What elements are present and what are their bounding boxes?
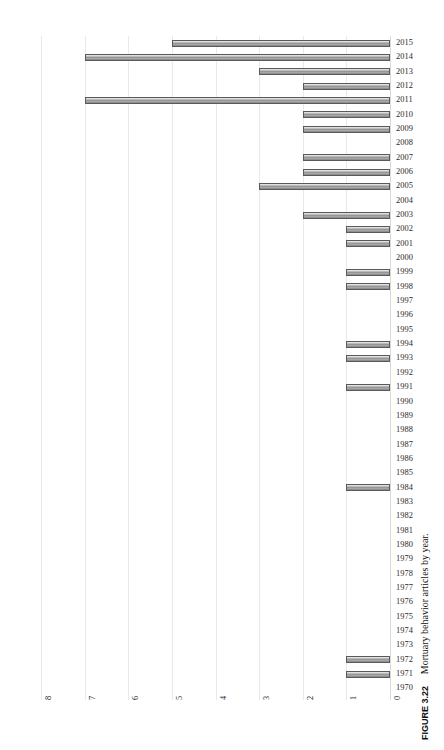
x-axis-line (390, 36, 391, 700)
x-tick-2: 2 (306, 696, 315, 700)
gridline-2 (303, 36, 304, 700)
bar-1972 (346, 656, 390, 663)
x-tick-0: 0 (393, 696, 402, 700)
gridline-3 (259, 36, 260, 700)
gridline-5 (172, 36, 173, 700)
bar-2014 (85, 54, 390, 61)
year-label-1984: 1984 (396, 483, 413, 493)
year-label-1971: 1971 (396, 669, 413, 679)
year-label-1987: 1987 (396, 440, 413, 450)
bar-2010 (303, 111, 390, 118)
bar-1994 (346, 341, 390, 348)
bar-2005 (259, 183, 390, 190)
year-label-1992: 1992 (396, 368, 413, 378)
gridline-8 (41, 36, 42, 700)
year-label-1994: 1994 (396, 339, 413, 349)
year-label-2007: 2007 (396, 153, 413, 163)
year-label-1970: 1970 (396, 683, 413, 693)
year-label-2014: 2014 (396, 52, 413, 62)
year-label-2015: 2015 (396, 38, 413, 48)
bar-2012 (303, 83, 390, 90)
x-tick-4: 4 (219, 696, 228, 700)
year-label-1980: 1980 (396, 540, 413, 550)
figure-caption-text: Mortuary behavior articles by year. (419, 533, 430, 674)
year-label-1982: 1982 (396, 511, 413, 521)
year-label-1988: 1988 (396, 425, 413, 435)
x-tick-6: 6 (131, 696, 140, 700)
year-label-1975: 1975 (396, 612, 413, 622)
year-label-2005: 2005 (396, 181, 413, 191)
year-label-1996: 1996 (396, 310, 413, 320)
year-label-1991: 1991 (396, 382, 413, 392)
gridline-6 (128, 36, 129, 700)
year-label-1995: 1995 (396, 325, 413, 335)
gridline-1 (346, 36, 347, 700)
year-label-1993: 1993 (396, 353, 413, 363)
year-label-1983: 1983 (396, 497, 413, 507)
year-label-2011: 2011 (396, 95, 413, 105)
bar-2007 (303, 154, 390, 161)
bar-1991 (346, 384, 390, 391)
figure-caption: FIGURE 3.22 Mortuary behavior articles b… (419, 533, 430, 740)
year-label-1979: 1979 (396, 554, 413, 564)
bar-2002 (346, 226, 390, 233)
x-tick-8: 8 (44, 696, 53, 700)
year-label-1997: 1997 (396, 296, 413, 306)
bar-2006 (303, 169, 390, 176)
year-label-2008: 2008 (396, 138, 413, 148)
year-label-2004: 2004 (396, 196, 413, 206)
bar-2001 (346, 240, 390, 247)
bar-2013 (259, 68, 390, 75)
year-label-2009: 2009 (396, 124, 413, 134)
year-label-1974: 1974 (396, 626, 413, 636)
year-label-1990: 1990 (396, 397, 413, 407)
bar-1984 (346, 484, 390, 491)
year-label-1999: 1999 (396, 267, 413, 277)
year-label-1972: 1972 (396, 655, 413, 665)
bar-2003 (303, 212, 390, 219)
figure-container: 2015201420132012201120102009200820072006… (0, 0, 444, 750)
x-tick-3: 3 (262, 696, 271, 700)
gridline-4 (216, 36, 217, 700)
bar-1993 (346, 355, 390, 362)
bar-2009 (303, 126, 390, 133)
year-label-1998: 1998 (396, 282, 413, 292)
year-label-1989: 1989 (396, 411, 413, 421)
year-label-1986: 1986 (396, 454, 413, 464)
year-label-1976: 1976 (396, 597, 413, 607)
year-label-1977: 1977 (396, 583, 413, 593)
year-label-2006: 2006 (396, 167, 413, 177)
gridline-7 (85, 36, 86, 700)
year-label-1981: 1981 (396, 526, 413, 536)
year-label-1985: 1985 (396, 468, 413, 478)
year-label-2013: 2013 (396, 67, 413, 77)
bar-1971 (346, 671, 390, 678)
year-label-1973: 1973 (396, 640, 413, 650)
x-tick-1: 1 (349, 696, 358, 700)
bar-2015 (172, 40, 390, 47)
year-label-2002: 2002 (396, 224, 413, 234)
bar-2011 (85, 97, 390, 104)
year-label-2010: 2010 (396, 110, 413, 120)
figure-number: FIGURE 3.22 (420, 686, 430, 740)
year-label-2012: 2012 (396, 81, 413, 91)
bar-1999 (346, 269, 390, 276)
x-tick-7: 7 (88, 696, 97, 700)
year-label-2003: 2003 (396, 210, 413, 220)
year-label-2001: 2001 (396, 239, 413, 249)
bar-1998 (346, 283, 390, 290)
year-label-1978: 1978 (396, 569, 413, 579)
year-label-2000: 2000 (396, 253, 413, 263)
chart-plot-area: 2015201420132012201120102009200820072006… (0, 0, 444, 750)
x-tick-5: 5 (175, 696, 184, 700)
